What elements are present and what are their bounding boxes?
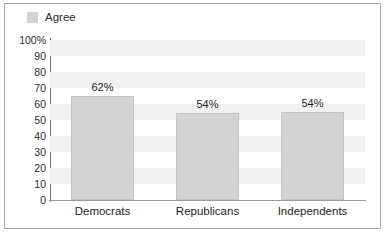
plot-wrapper: 100%9080706050403020100 62%54%54% Democr…	[5, 4, 382, 230]
bar-democrats[interactable]	[71, 96, 134, 200]
bar-value-label-democrats: 62%	[71, 81, 134, 93]
y-axis-tick-labels: 100%9080706050403020100	[5, 4, 46, 230]
y-axis-tick-label: 50	[34, 115, 46, 126]
bar-value-label-independents: 54%	[281, 97, 344, 109]
y-axis-tick-label: 90	[34, 51, 46, 62]
y-axis-tick-label: 0	[40, 195, 46, 206]
x-axis-label-republicans: Republicans	[155, 205, 260, 217]
y-axis-tick-label: 60	[34, 99, 46, 110]
y-axis-tick-label: 10	[34, 179, 46, 190]
y-axis-tick-label: 30	[34, 147, 46, 158]
x-axis-line	[49, 200, 366, 201]
y-axis-tick-label: 20	[34, 163, 46, 174]
bar-independents[interactable]	[281, 112, 344, 200]
chart-frame: Agree 100%9080706050403020100 62%54%54% …	[4, 3, 381, 229]
bar-value-label-republicans: 54%	[176, 98, 239, 110]
x-axis-label-independents: Independents	[260, 205, 365, 217]
y-axis-tick-label: 70	[34, 83, 46, 94]
bar-republicans[interactable]	[176, 113, 239, 200]
y-axis-tick-label: 40	[34, 131, 46, 142]
background-band	[50, 40, 365, 56]
x-axis-label-democrats: Democrats	[50, 205, 155, 217]
y-axis-tick-label: 100%	[19, 35, 46, 46]
y-axis-tick-label: 80	[34, 67, 46, 78]
plot-area: 62%54%54%	[50, 40, 365, 200]
